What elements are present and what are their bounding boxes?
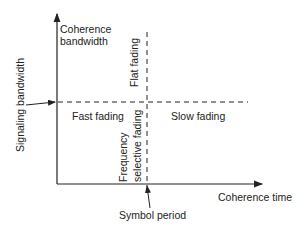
symbol-period-label: Symbol period [119, 209, 186, 221]
y-axis-label-line1: Coherence [60, 23, 111, 35]
signaling-bandwidth-label: Signaling bandwidth [14, 58, 26, 152]
flat-fading-label: Flat fading [128, 38, 140, 87]
freq-selective-label-line2: selective fading [131, 110, 143, 182]
signaling-arrow-icon [26, 102, 55, 105]
slow-fading-label: Slow fading [171, 110, 225, 122]
freq-selective-label-line1: Frequency [117, 132, 129, 182]
y-axis-label-line2: bandwidth [60, 35, 108, 47]
fast-fading-label: Fast fading [72, 110, 124, 122]
symbol-arrow-icon [147, 186, 150, 208]
x-axis-label: Coherence time [218, 191, 292, 203]
